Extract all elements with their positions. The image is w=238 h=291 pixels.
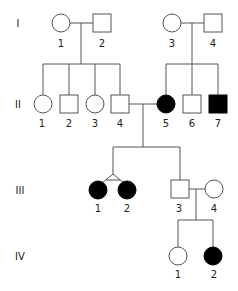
individual-I-1-female	[52, 14, 70, 32]
individual-label: 6	[189, 118, 195, 129]
individual-III-3-male	[171, 180, 189, 198]
individual-I-2-male	[93, 14, 111, 32]
individual-label: 7	[215, 118, 221, 129]
individual-II-2-male	[60, 95, 78, 113]
individual-III-1-female-affected-twin	[89, 181, 107, 199]
individual-II-7-male-affected	[209, 95, 227, 113]
individual-III-4-female	[205, 180, 223, 198]
generation-label-IV: IV	[15, 251, 25, 262]
twin-line	[102, 174, 113, 183]
individual-label: 3	[92, 118, 98, 129]
individual-II-6-male	[183, 95, 201, 113]
individual-label: 2	[211, 269, 217, 280]
generation-label-II: II	[15, 99, 21, 110]
pedigree-chart: I II III IV 1 2 3 4 1 2 3 4 5 6 7	[0, 0, 238, 291]
individual-label: 3	[176, 203, 182, 214]
individual-II-4-male	[111, 95, 129, 113]
individual-IV-2-female-affected	[204, 247, 222, 265]
individual-label: 2	[66, 118, 72, 129]
individual-label: 1	[95, 203, 101, 214]
individual-I-4-male	[204, 14, 222, 32]
individual-label: 5	[163, 118, 169, 129]
individual-label: 1	[39, 118, 45, 129]
individual-label: 4	[117, 118, 123, 129]
individual-II-5-female-affected	[157, 95, 175, 113]
individual-III-2-female-affected-twin	[118, 181, 136, 199]
individual-label: 2	[99, 38, 105, 49]
generation-label-III: III	[16, 185, 25, 196]
individual-label: 3	[169, 38, 175, 49]
individual-label: 4	[210, 38, 216, 49]
individual-IV-1-female	[169, 247, 187, 265]
individual-label: 1	[58, 38, 64, 49]
individual-label: 1	[175, 269, 181, 280]
individual-label: 4	[211, 203, 217, 214]
individual-I-3-female	[163, 14, 181, 32]
generation-label-I: I	[17, 18, 20, 29]
twin-line	[113, 174, 124, 183]
individual-II-3-female	[86, 95, 104, 113]
individual-label: 2	[124, 203, 130, 214]
individual-II-1-female	[34, 95, 52, 113]
